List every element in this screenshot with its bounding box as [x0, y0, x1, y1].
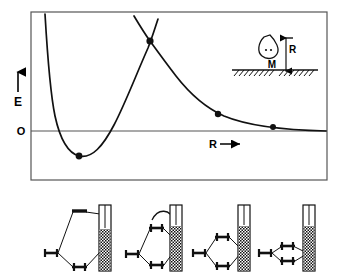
far-field-point: [270, 124, 276, 130]
metal-band: [170, 205, 182, 271]
curve-crossing-point: [146, 37, 153, 44]
inset-surface-label: M: [268, 59, 276, 70]
figure-svg: E O R R: [0, 0, 340, 279]
x-axis-label: R: [209, 138, 217, 150]
well-minimum-point: [76, 153, 83, 160]
figure-root: E O R R: [0, 0, 340, 279]
metal-band: [99, 205, 111, 271]
intermediate-point: [215, 111, 221, 117]
y-axis-label: E: [14, 95, 22, 109]
origin-label: O: [17, 125, 26, 137]
electron-dot: [265, 49, 267, 51]
electron-dot: [270, 49, 272, 51]
metal-band: [303, 205, 315, 271]
metal-band: [238, 205, 250, 271]
inset-distance-label: R: [289, 44, 297, 55]
